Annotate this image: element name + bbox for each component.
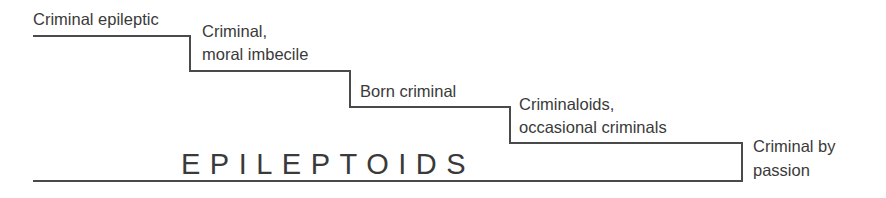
step-1-riser — [189, 35, 191, 72]
step-label-criminal-by: Criminal by — [753, 136, 836, 156]
baseline — [33, 180, 743, 182]
step-label-criminaloids: Criminaloids, — [519, 94, 614, 114]
step-label-born-criminal: Born criminal — [360, 81, 456, 101]
step-2-line — [189, 70, 351, 72]
step-1-line — [33, 35, 191, 37]
step-4-bracket — [741, 142, 743, 181]
step-label-passion: passion — [753, 160, 810, 180]
step-4-line — [509, 142, 743, 144]
step-label-occasional-criminals: occasional criminals — [519, 117, 667, 137]
diagram-title-epileptoids: EPILEPTOIDS — [181, 148, 475, 180]
step-3-riser — [509, 106, 511, 144]
step-3-line — [349, 106, 511, 108]
step-2-riser — [349, 70, 351, 108]
step-label-criminal-epileptic: Criminal epileptic — [33, 9, 159, 29]
step-label-moral-imbecile: moral imbecile — [202, 44, 308, 64]
epileptoids-staircase-diagram: Criminal epileptic Criminal, moral imbec… — [0, 0, 886, 198]
step-label-criminal-line1: Criminal, — [202, 21, 267, 41]
